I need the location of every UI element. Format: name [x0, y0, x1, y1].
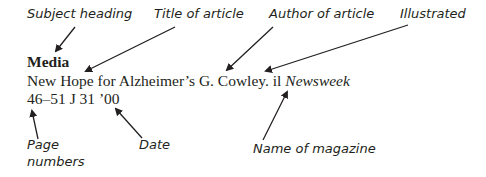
label-date: Date	[139, 137, 170, 153]
arrow-name-of-magazine	[263, 92, 287, 140]
label-page-numbers-line2: numbers	[27, 154, 85, 170]
entry-subject-heading: Media	[27, 53, 69, 71]
arrow-author-of-article	[227, 27, 273, 70]
entry-magazine: Newsweek	[285, 72, 350, 89]
arrow-illustrated	[266, 25, 408, 71]
label-name-of-magazine: Name of magazine	[253, 141, 376, 157]
entry-date: J 31 ’00	[70, 90, 120, 107]
label-page-numbers-line1: Page	[27, 137, 59, 153]
entry-title: New Hope for Alzheimer’s	[27, 72, 195, 89]
arrow-title-of-article	[86, 27, 175, 71]
arrow-date	[116, 109, 142, 138]
arrow-subject-heading	[56, 27, 75, 51]
arrow-page-numbers	[32, 111, 38, 139]
label-illustrated: Illustrated	[400, 6, 466, 22]
label-title-of-article: Title of article	[154, 6, 244, 22]
label-author-of-article: Author of article	[269, 6, 374, 22]
entry-pages: 46–51	[27, 90, 66, 107]
entry-illustrated: il	[273, 72, 282, 89]
label-subject-heading: Subject heading	[27, 6, 132, 22]
entry-author: G. Cowley.	[199, 72, 269, 89]
entry-citation-line: New Hope for Alzheimer’s G. Cowley. il N…	[27, 72, 350, 90]
entry-pages-date-line: 46–51 J 31 ’00	[27, 90, 120, 108]
